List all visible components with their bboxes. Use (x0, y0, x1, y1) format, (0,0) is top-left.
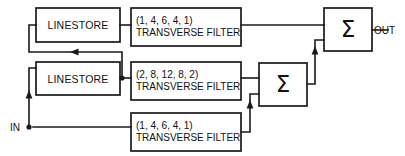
filter-bottom-box (131, 113, 241, 151)
filter-top-box (131, 8, 241, 46)
arrow-adder-intermediate-riser (312, 46, 319, 55)
filter-block-diagram: LINESTORE LINESTORE (1, 4, 6, 4, 1) TRAN… (0, 0, 405, 156)
diagram-canvas (0, 0, 405, 156)
wire-filter-bottom-to-adder-intermediate (241, 94, 259, 132)
arrow-in-riser (26, 90, 33, 99)
arrow-bottom-filter-riser (247, 100, 254, 109)
output-port-label: OUT (374, 25, 395, 36)
junction-dot-input (26, 124, 31, 129)
adder-intermediate-box (259, 63, 307, 106)
wire-adder-intermediate-to-adder-output (307, 40, 324, 84)
arrow-feedback-left (70, 49, 79, 56)
linestore-top-box (36, 8, 120, 42)
linestore-middle-box (36, 62, 120, 95)
input-port-label: IN (10, 122, 20, 133)
filter-middle-box (131, 62, 241, 100)
adder-output-box (324, 8, 372, 51)
